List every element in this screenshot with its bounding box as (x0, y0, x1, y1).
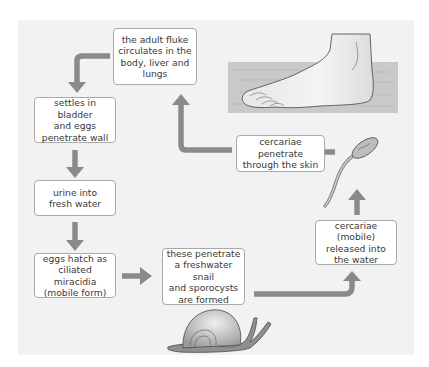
step-cercariae-released: cercariae (mobile) released into the wat… (315, 220, 397, 265)
step-adult-fluke: the adult fluke circulates in the body, … (113, 28, 197, 85)
arrow-penetrate-to-adult (181, 105, 232, 150)
step-snail-penetration: these penetrate a freshwater snail and s… (162, 248, 245, 305)
step-eggs-hatch: eggs hatch as ciliated miracidia (mobile… (34, 253, 116, 298)
step-urine-into-water: urine into fresh water (34, 180, 116, 216)
arrow-snail-to-released (254, 281, 352, 294)
step-settles-in-bladder: settles in bladder and eggs penetrate wa… (34, 97, 116, 143)
arrow-adult-to-settles (77, 56, 110, 82)
snail-illustration (168, 310, 271, 353)
step-cercariae-penetrate-skin: cercariae penetrate through the skin (236, 135, 325, 172)
